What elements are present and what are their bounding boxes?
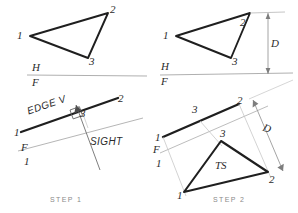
drawing-sheet: 1 2 3 H F 1 2 3 H F D EDGE V SIGHT 1 2 3…	[0, 0, 298, 213]
fold-label-h-left: H	[32, 62, 40, 73]
fold-label-f-step1: F	[21, 142, 28, 153]
vertex-label-3-ts: 3	[220, 128, 226, 139]
fold-line-f1-left	[18, 118, 143, 151]
edge-view-line-step2	[163, 104, 239, 137]
true-size-label: TS	[215, 160, 227, 171]
triangle-top-right	[176, 13, 250, 58]
vertex-label-3-top-left: 3	[89, 56, 95, 67]
vertex-label-1-top-left: 1	[17, 30, 23, 41]
triangle-top-left	[30, 13, 108, 58]
dim-extension-top	[250, 12, 285, 13]
step-label-2: STEP 2	[213, 196, 245, 203]
fold-line-hf-left	[27, 75, 147, 76]
dim-extension-step2	[249, 80, 293, 99]
fold-label-f-step2: F	[153, 144, 160, 155]
vertex-label-2-step1: 2	[118, 93, 124, 104]
projector-3	[200, 121, 222, 146]
fold-label-f-left: F	[32, 77, 39, 88]
vertex-label-2-top-left: 2	[110, 4, 116, 15]
dim-arrow-up	[266, 13, 271, 19]
vertex-label-2-ts: 2	[269, 174, 275, 185]
vertex-label-3-edge-step2: 3	[192, 104, 198, 115]
fold-label-1-step2: 1	[156, 158, 162, 169]
fold-line-hf-right	[160, 73, 293, 75]
top-left-view	[27, 13, 147, 76]
projector-1	[163, 137, 186, 196]
projector-2	[239, 104, 271, 178]
vertex-label-3-step1: 3	[80, 108, 86, 119]
vertex-label-2-edge-step2: 2	[237, 95, 243, 106]
fold-label-f-right: F	[161, 76, 168, 87]
step-label-1: STEP 1	[50, 196, 82, 203]
vertex-label-1-ts: 1	[177, 190, 183, 201]
vertex-label-1-step1: 1	[14, 127, 20, 138]
fold-label-1-step1: 1	[24, 156, 30, 167]
vertex-label-2-top-right: 2	[240, 17, 246, 28]
sight-annotation: SIGHT	[90, 137, 123, 147]
fold-line-f1-right	[160, 106, 268, 153]
vertex-label-1-edge-step2: 1	[155, 132, 161, 143]
dim-line-depth-step2	[253, 100, 283, 171]
vertex-label-3-top-right: 3	[232, 56, 238, 67]
dimension-label-d-top: D	[271, 38, 279, 49]
fold-label-h-right: H	[161, 61, 169, 72]
vertex-label-1-top-right: 1	[163, 30, 169, 41]
